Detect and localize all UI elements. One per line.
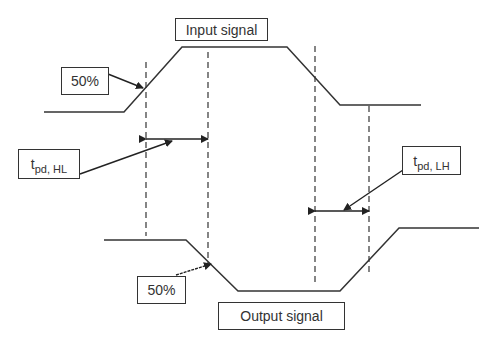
tpd-lh-label: tpd, LH bbox=[402, 146, 461, 175]
input-signal-label: Input signal bbox=[175, 18, 268, 41]
tpd-lh-text: tpd, LH bbox=[413, 154, 449, 168]
output-signal-text: Output signal bbox=[240, 309, 323, 323]
input-50-leader bbox=[108, 74, 143, 88]
output-50-percent-label: 50% bbox=[137, 276, 186, 304]
dashed-reference-lines bbox=[146, 46, 369, 283]
output-signal-label: Output signal bbox=[218, 302, 345, 330]
input-signal-text: Input signal bbox=[186, 23, 258, 37]
tpd-lh-leader bbox=[344, 170, 403, 210]
output-50-text: 50% bbox=[147, 283, 175, 297]
input-50-percent-label: 50% bbox=[61, 67, 109, 95]
input-50-text: 50% bbox=[71, 74, 99, 88]
output-50-leader bbox=[176, 264, 211, 275]
tpd-hl-leader bbox=[80, 141, 172, 174]
tpd-hl-text: tpd, HL bbox=[31, 157, 67, 171]
tpd-hl-label: tpd, HL bbox=[18, 149, 80, 179]
